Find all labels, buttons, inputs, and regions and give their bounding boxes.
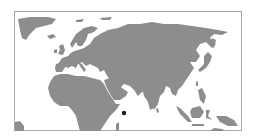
japan [198,52,212,72]
landmasses [15,17,238,131]
ireland [54,49,57,53]
borneo [190,106,204,118]
arctic-islands-2 [100,17,112,20]
sulawesi [206,110,212,120]
taiwan [196,81,198,86]
philippines [198,88,206,104]
new-guinea [216,116,238,126]
java [192,124,204,126]
australia-north [210,128,226,131]
sakhalin [211,38,216,48]
indian-subcontinent [142,86,160,110]
south-america-corner [15,121,24,131]
sumatra [176,106,192,122]
arctic-islands [76,19,84,22]
iceland [47,34,56,39]
iberia [55,62,66,72]
madagascar [116,122,119,131]
location-marker [122,111,126,115]
sri-lanka [156,108,159,113]
world-map [0,0,256,138]
british-isles [58,44,65,55]
